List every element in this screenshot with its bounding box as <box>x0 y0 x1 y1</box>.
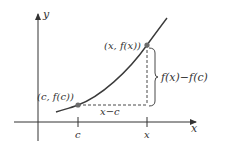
y-axis-label: y <box>42 8 50 21</box>
vertical-gap-label: f(x)−f(c) <box>160 71 208 84</box>
tick-label-x: x <box>144 129 150 140</box>
point-c-fc <box>75 102 80 107</box>
tick-label-c: c <box>75 129 81 140</box>
vertical-brace <box>149 48 158 106</box>
secant-diagram: y x c x (c, f(c)) (x, f(x)) x−c f(x)−f(c… <box>0 0 225 152</box>
point-label-x-fx: (x, f(x)) <box>104 40 141 51</box>
x-axis-label: x <box>191 122 198 135</box>
horizontal-gap-label: x−c <box>100 106 120 117</box>
point-x-fx <box>144 42 149 47</box>
point-label-c-fc: (c, f(c)) <box>37 91 74 102</box>
